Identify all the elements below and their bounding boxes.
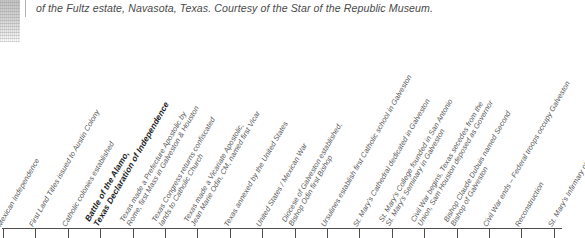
timeline-event-line: Bishop Odin first Bishop [287, 126, 351, 228]
timeline-event-label[interactable]: St. Mary's Infirmary opens [547, 149, 585, 228]
timeline-tick [197, 228, 198, 238]
timeline-tick [230, 228, 231, 238]
timeline-tick [262, 228, 263, 238]
timeline-tick [457, 228, 458, 238]
timeline-tick [327, 228, 328, 238]
timeline-tick [68, 228, 69, 238]
timeline-event-label[interactable]: Reconstruction [514, 180, 546, 228]
timeline-tick [521, 228, 522, 238]
timeline-tick [424, 228, 425, 238]
timeline-event-line: Reconstruction [514, 180, 546, 228]
timeline-tick [295, 228, 296, 238]
timeline-tick [489, 228, 490, 238]
timeline-tick [392, 228, 393, 238]
timeline-tick [3, 228, 4, 238]
timeline-tick [165, 228, 166, 238]
timeline-axis [2, 228, 562, 229]
timeline-tick [359, 228, 360, 238]
timeline-tick [133, 228, 134, 238]
timeline-tick [554, 228, 555, 238]
timeline-tick [35, 228, 36, 238]
timeline-event-line: St. Mary's Infirmary opens [547, 149, 585, 228]
timeline-page: of the Fultz estate, Navasota, Texas. Co… [0, 0, 585, 238]
timeline-chart: Mexican IndependenceFirst Land Titles is… [0, 0, 585, 238]
timeline-tick [100, 228, 101, 238]
